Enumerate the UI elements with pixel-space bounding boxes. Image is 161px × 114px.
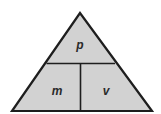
bottom-right-label-v: v — [103, 85, 110, 97]
formula-triangle — [0, 0, 161, 114]
top-label-p: p — [76, 39, 83, 51]
triangle-shape — [12, 13, 152, 111]
bottom-left-label-m: m — [52, 85, 63, 97]
